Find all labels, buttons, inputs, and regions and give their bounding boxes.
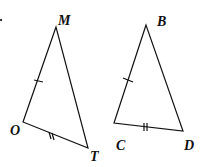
- triangle-mot: [23, 27, 88, 148]
- diagram-canvas: M O T B C D: [0, 0, 200, 167]
- label-o: O: [10, 123, 20, 138]
- triangle-bcd: [114, 25, 183, 131]
- stray-dot: [0, 19, 2, 21]
- label-t: T: [90, 149, 100, 164]
- congruent-triangles-figure: M O T B C D: [0, 0, 200, 167]
- label-m: M: [57, 13, 71, 28]
- label-b: B: [156, 14, 166, 29]
- label-c: C: [116, 138, 126, 153]
- tick-mark-mo: [34, 80, 43, 82]
- label-d: D: [183, 138, 194, 153]
